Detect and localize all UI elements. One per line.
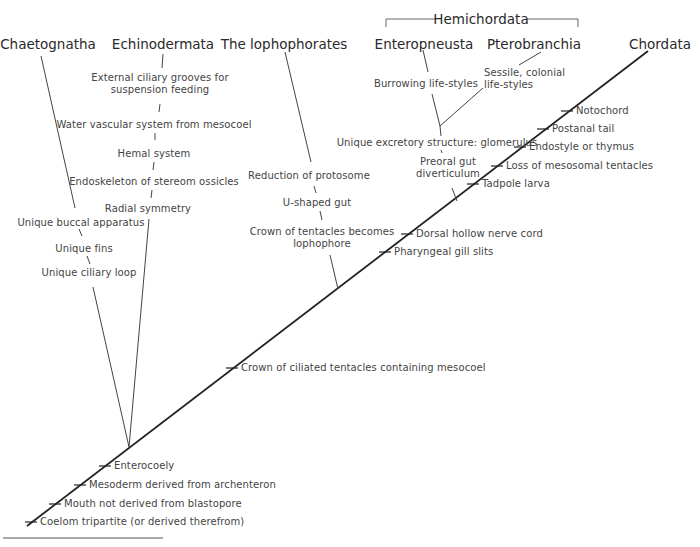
taxon-enteropneusta: Enteropneusta — [375, 36, 474, 52]
character-mesoderm-archenteron: Mesoderm derived from archenteron — [89, 479, 276, 491]
character-reduction-protosome: Reduction of protosome — [248, 170, 370, 182]
character-dorsal-hollow-nerve-cord: Dorsal hollow nerve cord — [416, 228, 543, 240]
character-postanal-tail: Postanal tail — [552, 123, 614, 135]
character-endoskeleton-stereom: Endoskeleton of stereom ossicles — [69, 176, 239, 188]
taxon-pterobranchia: Pterobranchia — [487, 36, 581, 52]
character-preoral-gut-diverticulum: Preoral gut diverticulum — [416, 156, 480, 180]
character-tadpole-larva: Tadpole larva — [482, 178, 550, 190]
character-notochord: Notochord — [576, 105, 629, 117]
character-unique-ciliary-loop: Unique ciliary loop — [42, 267, 137, 279]
character-unique-fins: Unique fins — [55, 243, 112, 255]
character-mouth-not-blastopore: Mouth not derived from blastopore — [64, 498, 242, 510]
character-lophophore: Crown of tentacles becomes lophophore — [250, 226, 395, 250]
character-u-shaped-gut: U-shaped gut — [283, 197, 351, 209]
echinodermata-branch — [129, 54, 163, 447]
taxon-lophophorates: The lophophorates — [221, 36, 348, 52]
character-sessile-colonial: Sessile, colonial life-styles — [484, 67, 565, 91]
character-crown-ciliated-tentacles: Crown of ciliated tentacles containing m… — [241, 362, 486, 374]
character-external-ciliary-grooves: External ciliary grooves for suspension … — [91, 72, 228, 96]
character-pharyngeal-gill-slits: Pharyngeal gill slits — [394, 246, 493, 258]
character-burrowing-life-styles: Burrowing life-styles — [374, 78, 478, 90]
group-label-hemichordata: Hemichordata — [433, 11, 528, 27]
character-hemal-system: Hemal system — [118, 148, 191, 160]
character-endostyle-thymus: Endostyle or thymus — [529, 141, 634, 153]
character-glomerulus: Unique excretory structure: glomerulus — [337, 137, 538, 149]
character-radial-symmetry: Radial symmetry — [105, 203, 191, 215]
character-water-vascular-system: Water vascular system from mesocoel — [56, 119, 251, 131]
character-loss-mesosomal-tentacles: Loss of mesosomal tentacles — [506, 160, 653, 172]
taxon-chordata: Chordata — [629, 36, 691, 52]
character-enterocoely: Enterocoely — [114, 460, 174, 472]
taxon-echinodermata: Echinodermata — [112, 36, 214, 52]
character-unique-buccal-apparatus: Unique buccal apparatus — [17, 217, 144, 229]
character-coelom-tripartite: Coelom tripartite (or derived therefrom) — [40, 516, 244, 528]
taxon-chaetognatha: Chaetognatha — [0, 36, 96, 52]
